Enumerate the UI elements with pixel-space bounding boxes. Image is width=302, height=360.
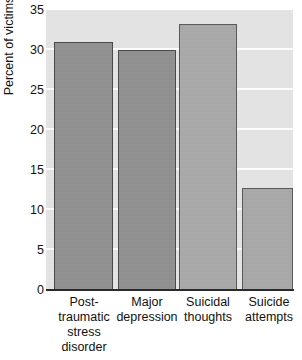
bar-major-depression[interactable]	[118, 50, 176, 290]
x-label-major-depression: Major depression	[108, 295, 186, 325]
bar-chart-figure: Percent of victims 35 30 25 20 15 10 5 0…	[0, 0, 302, 360]
y-tick-35: 35	[18, 4, 44, 16]
bar-suicidal-thoughts[interactable]	[179, 24, 237, 290]
x-label-line: Suicidal	[176, 295, 240, 310]
y-tick-10: 10	[18, 204, 44, 216]
bar-suicide-attempts[interactable]	[242, 188, 293, 290]
x-axis-category-labels: Post- traumatic stress disorder Major de…	[46, 295, 293, 359]
x-label-line: Suicide	[238, 295, 300, 310]
y-axis-tick-labels: 35 30 25 20 15 10 5 0	[18, 0, 44, 300]
x-label-suicidal-thoughts: Suicidal thoughts	[176, 295, 240, 325]
y-tick-0: 0	[18, 284, 44, 296]
y-tick-15: 15	[18, 164, 44, 176]
y-tick-30: 30	[18, 44, 44, 56]
y-axis-label: Percent of victims	[2, 0, 18, 116]
x-label-line: attempts	[238, 310, 300, 325]
x-label-line: thoughts	[176, 310, 240, 325]
y-tick-5: 5	[18, 244, 44, 256]
x-axis-line	[46, 289, 294, 291]
y-tick-25: 25	[18, 84, 44, 96]
bar-post-traumatic-stress-disorder[interactable]	[54, 42, 113, 290]
x-label-suicide-attempts: Suicide attempts	[238, 295, 300, 325]
plot-area	[46, 10, 293, 290]
x-label-line: depression	[108, 310, 186, 325]
x-label-line: Major	[108, 295, 186, 310]
x-label-line: disorder	[46, 340, 122, 355]
y-tick-20: 20	[18, 124, 44, 136]
x-label-line: stress	[46, 325, 122, 340]
